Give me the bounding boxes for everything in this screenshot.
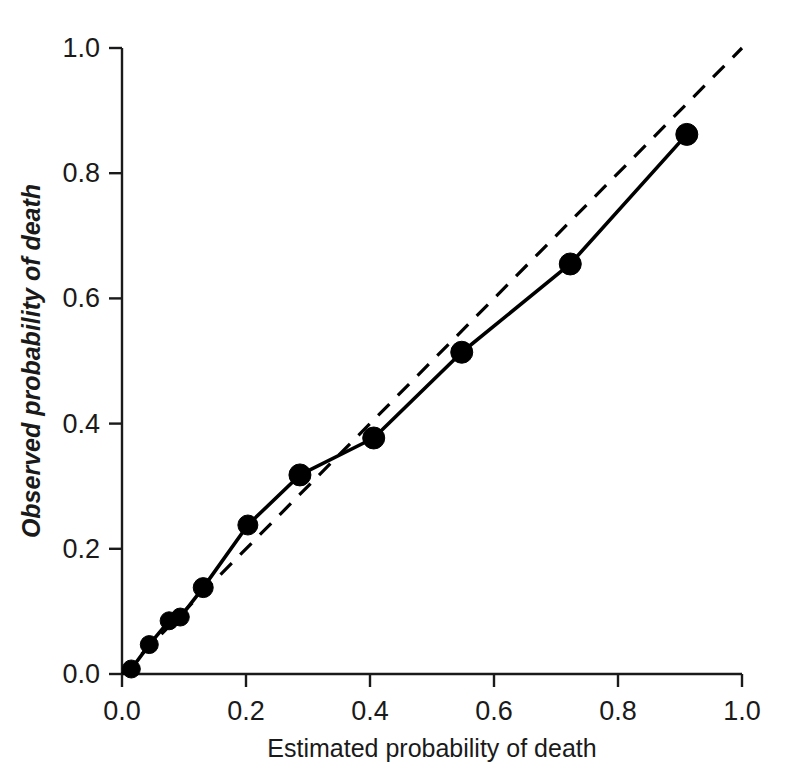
data-point-marker [559, 253, 581, 275]
axis-lines [122, 48, 742, 674]
data-point-marker [289, 464, 311, 486]
y-axis-title: Observed probability of death [17, 184, 45, 538]
y-tick-label: 0.8 [62, 158, 100, 188]
x-axis-ticks [122, 674, 742, 687]
y-tick-label: 1.0 [62, 33, 100, 63]
x-tick-label: 0.4 [351, 696, 389, 726]
data-point-marker [676, 123, 698, 145]
x-tick-label: 1.0 [723, 696, 761, 726]
y-tick-label: 0.6 [62, 283, 100, 313]
x-tick-label: 0.8 [599, 696, 637, 726]
x-tick-label: 0.6 [475, 696, 513, 726]
data-point-marker [193, 578, 213, 598]
calibration-plot: 0.00.20.40.60.81.0 0.00.20.40.60.81.0 Es… [0, 0, 786, 779]
observed-series-line [131, 134, 687, 669]
x-tick-label: 0.2 [227, 696, 265, 726]
x-tick-label: 0.0 [103, 696, 141, 726]
data-point-marker [363, 427, 385, 449]
data-point-marker [171, 608, 189, 626]
x-axis-tick-labels: 0.00.20.40.60.81.0 [103, 696, 761, 726]
data-point-marker [140, 636, 158, 654]
data-point-marker [238, 515, 258, 535]
data-point-marker [451, 341, 473, 363]
reference-line [122, 48, 742, 674]
y-tick-label: 0.4 [62, 409, 100, 439]
y-tick-label: 0.0 [62, 659, 100, 689]
y-axis-ticks [109, 48, 122, 674]
chart-figure: 0.00.20.40.60.81.0 0.00.20.40.60.81.0 Es… [0, 0, 786, 779]
data-series-line [131, 134, 687, 669]
reference-dashed-line [122, 48, 742, 674]
data-point-marker [122, 660, 140, 678]
y-tick-label: 0.2 [62, 534, 100, 564]
y-axis-tick-labels: 0.00.20.40.60.81.0 [62, 33, 100, 689]
x-axis-title: Estimated probability of death [267, 734, 596, 762]
